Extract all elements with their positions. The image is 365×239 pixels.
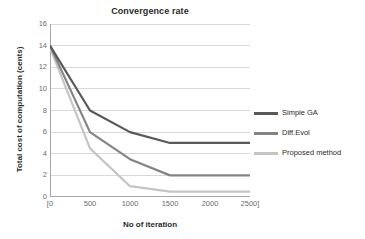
legend-item-simple-ga[interactable]: Simple GA — [254, 103, 365, 123]
legend-swatch-icon — [254, 132, 278, 135]
y-tick-label-12: 12 — [27, 63, 47, 71]
plot-svg — [50, 24, 250, 197]
plot-area — [50, 24, 250, 197]
x-tick-label-2500: 2500] — [228, 200, 272, 208]
x-axis-tick-labels: [05001000150020002500] — [50, 200, 250, 212]
chart-title: Convergence rate — [50, 6, 250, 16]
convergence-rate-chart: Convergence rate Total cost of computati… — [0, 0, 365, 239]
y-axis-tick-labels: 0246810121416 — [25, 24, 47, 197]
legend-label: Simple GA — [282, 109, 318, 117]
legend-item-proposed-method[interactable]: Proposed method — [254, 143, 365, 163]
x-tick-label-500: 500 — [68, 200, 112, 208]
x-axis-title: No of iteration — [50, 220, 250, 229]
x-tick-label-2000: 2000 — [188, 200, 232, 208]
legend-swatch-icon — [254, 112, 278, 115]
y-axis-title: Total cost of computation (cents) — [15, 20, 24, 200]
y-tick-label-8: 8 — [27, 107, 47, 115]
x-tick-label-0: [0 — [28, 200, 72, 208]
chart-legend: Simple GADiff.EvolProposed method — [254, 103, 365, 163]
legend-item-diff-evol[interactable]: Diff.Evol — [254, 123, 365, 143]
y-tick-label-16: 16 — [27, 20, 47, 28]
legend-swatch-icon — [254, 152, 278, 155]
series-line-proposed-method — [50, 48, 250, 192]
y-tick-label-14: 14 — [27, 42, 47, 50]
y-tick-label-2: 2 — [27, 171, 47, 179]
legend-label: Diff.Evol — [282, 129, 310, 137]
legend-label: Proposed method — [282, 149, 341, 157]
x-tick-label-1000: 1000 — [108, 200, 152, 208]
x-tick-label-1500: 1500 — [148, 200, 192, 208]
y-tick-label-6: 6 — [27, 128, 47, 136]
y-tick-label-10: 10 — [27, 85, 47, 93]
series-line-simple-ga — [50, 46, 250, 143]
y-tick-label-4: 4 — [27, 150, 47, 158]
